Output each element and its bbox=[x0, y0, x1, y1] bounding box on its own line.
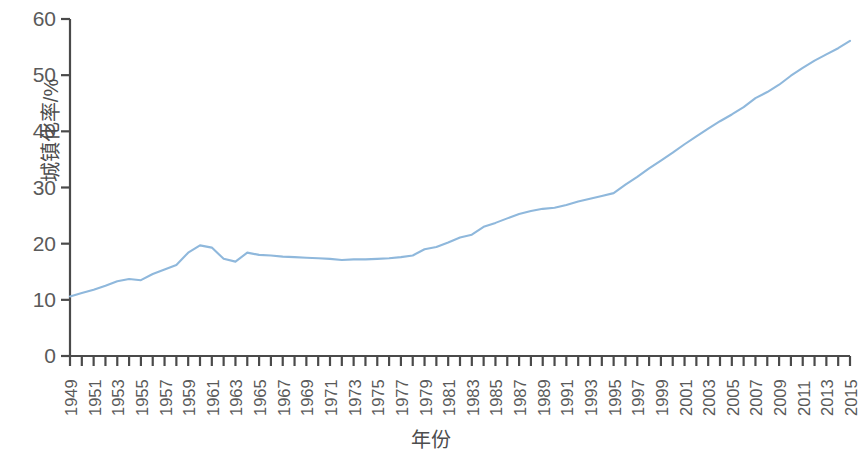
y-axis-tick-label: 10 bbox=[12, 289, 56, 310]
x-axis-tick-label: 1967 bbox=[276, 379, 293, 416]
x-axis-tick-label: 1975 bbox=[370, 379, 387, 416]
chart-container: 0102030405060 19491951195319551957195919… bbox=[0, 0, 862, 450]
x-axis-tick-label: 1971 bbox=[323, 379, 340, 416]
x-axis-tick-label: 1949 bbox=[63, 379, 80, 416]
x-axis-tick-label: 1995 bbox=[607, 379, 624, 416]
x-axis-tick-label: 2013 bbox=[819, 379, 836, 416]
x-axis-tick-label: 1961 bbox=[205, 379, 222, 416]
x-axis-tick-label: 1951 bbox=[87, 379, 104, 416]
x-axis-tick-label: 1985 bbox=[488, 379, 505, 416]
x-axis-tick-label: 2009 bbox=[772, 379, 789, 416]
y-axis-tick-label: 20 bbox=[12, 233, 56, 254]
x-axis-tick-label: 2015 bbox=[843, 379, 860, 416]
x-axis-tick-label: 1989 bbox=[536, 379, 553, 416]
x-axis-tick-label: 2001 bbox=[678, 379, 695, 416]
x-axis-tick-label: 1981 bbox=[441, 379, 458, 416]
data-line-urbanization bbox=[70, 41, 850, 297]
x-axis-tick-label: 1983 bbox=[465, 379, 482, 416]
x-axis-tick-label: 1965 bbox=[252, 379, 269, 416]
x-axis-tick-label: 1999 bbox=[654, 379, 671, 416]
x-axis-tick-label: 1973 bbox=[347, 379, 364, 416]
x-axis-tick-label: 2011 bbox=[796, 381, 813, 416]
x-axis-tick-label: 2003 bbox=[701, 379, 718, 416]
x-axis-tick-label: 1987 bbox=[512, 379, 529, 416]
x-axis-tick-label: 1963 bbox=[228, 379, 245, 416]
x-axis-title: 年份 bbox=[0, 424, 862, 450]
chart-axes bbox=[61, 19, 850, 366]
x-axis-tick-label: 1977 bbox=[394, 379, 411, 416]
x-axis-tick-label: 1953 bbox=[110, 379, 127, 416]
y-axis-title: 城镇化率/% bbox=[35, 61, 64, 201]
x-axis-tick-label: 1955 bbox=[134, 379, 151, 416]
x-axis-tick-label: 1957 bbox=[158, 379, 175, 416]
x-axis-tick-label: 2005 bbox=[725, 379, 742, 416]
chart-series bbox=[70, 41, 850, 297]
x-axis-tick-label: 1979 bbox=[418, 379, 435, 416]
y-axis-tick-label: 60 bbox=[12, 8, 56, 29]
x-axis-tick-label: 1993 bbox=[583, 379, 600, 416]
x-axis-tick-label: 1997 bbox=[630, 379, 647, 416]
x-axis-tick-label: 1959 bbox=[181, 379, 198, 416]
x-axis-tick-label: 1991 bbox=[559, 379, 576, 416]
x-axis-tick-label: 1969 bbox=[299, 379, 316, 416]
y-axis-tick-label: 0 bbox=[12, 345, 56, 366]
x-axis-tick-label: 2007 bbox=[748, 379, 765, 416]
